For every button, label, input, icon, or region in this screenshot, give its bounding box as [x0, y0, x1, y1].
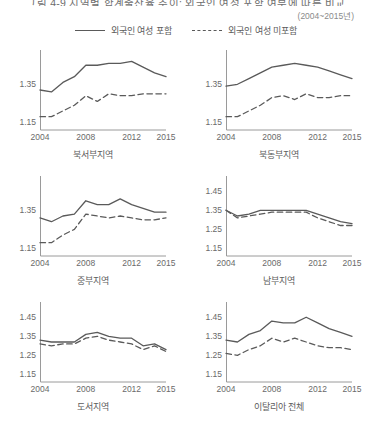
- panel-caption: 도서지역: [0, 400, 186, 413]
- y-axis-labels: 1.151.251.351.45: [0, 302, 36, 382]
- y-axis-tick-label: 1.35: [205, 205, 222, 215]
- y-axis-tick-label: 1.35: [19, 205, 36, 215]
- legend-item-included: 외국인 여성 포함: [75, 24, 172, 37]
- x-axis-tick-label: 2012: [122, 258, 141, 268]
- x-axis-tick-label: 2004: [217, 384, 236, 394]
- x-axis-labels: 2004200820122015: [226, 258, 352, 272]
- panel-grid: 1.151.352004200820122015북서부지역 1.151.3520…: [0, 44, 372, 430]
- y-axis-tick-label: 1.45: [205, 312, 222, 322]
- x-axis-tick-label: 2004: [31, 258, 50, 268]
- series-line-included: [40, 61, 166, 91]
- figure-title: 그림 4-9 지역별 합계출산율 추이: 외국인 여성 포함 여부에 따른 비교: [0, 0, 372, 6]
- panel-northwest: 1.151.352004200820122015북서부지역: [0, 44, 186, 172]
- series-line-excluded: [40, 94, 166, 117]
- x-axis-tick-label: 2004: [31, 384, 50, 394]
- x-axis-tick-label: 2015: [157, 132, 176, 142]
- panel-northeast: 1.151.352004200820122015북동부지역: [186, 44, 372, 172]
- y-axis-tick-label: 1.15: [205, 117, 222, 127]
- y-axis-tick-label: 1.25: [205, 350, 222, 360]
- legend-label-excluded: 외국인 여성 미포함: [228, 24, 297, 37]
- x-axis-tick-label: 2004: [217, 132, 236, 142]
- x-axis-labels: 2004200820122015: [40, 384, 166, 398]
- legend-item-excluded: 외국인 여성 미포함: [192, 24, 297, 37]
- y-axis-tick-label: 1.15: [19, 117, 36, 127]
- x-axis-tick-label: 2015: [343, 258, 362, 268]
- y-axis-tick-label: 1.45: [205, 186, 222, 196]
- plot-area: [40, 50, 166, 130]
- y-axis-labels: 1.151.35: [0, 176, 36, 256]
- legend-label-included: 외국인 여성 포함: [111, 24, 172, 37]
- x-axis-tick-label: 2008: [262, 384, 281, 394]
- y-axis-labels: 1.151.251.351.45: [186, 176, 222, 256]
- x-axis-labels: 2004200820122015: [40, 258, 166, 272]
- y-axis-tick-label: 1.35: [19, 331, 36, 341]
- panel-caption: 북동부지역: [186, 148, 372, 161]
- panel-central: 1.151.352004200820122015중부지역: [0, 170, 186, 298]
- y-axis-tick-label: 1.35: [205, 79, 222, 89]
- legend-solid-line-icon: [75, 27, 105, 35]
- plot-area: [226, 176, 352, 256]
- y-axis-tick-label: 1.25: [205, 224, 222, 234]
- x-axis-tick-label: 2015: [157, 384, 176, 394]
- plot-area: [40, 302, 166, 382]
- y-axis-labels: 1.151.35: [0, 50, 36, 130]
- x-axis-labels: 2004200820122015: [226, 132, 352, 146]
- y-axis-tick-label: 1.45: [19, 312, 36, 322]
- x-axis-tick-label: 2004: [31, 132, 50, 142]
- panel-caption: 북서부지역: [0, 148, 186, 161]
- x-axis-tick-label: 2008: [262, 132, 281, 142]
- axis-lines: [227, 302, 353, 382]
- panel-caption: 중부지역: [0, 274, 186, 287]
- y-axis-tick-label: 1.15: [19, 243, 36, 253]
- x-axis-tick-label: 2015: [343, 384, 362, 394]
- x-axis-tick-label: 2004: [217, 258, 236, 268]
- y-axis-labels: 1.151.35: [186, 50, 222, 130]
- series-line-included: [226, 63, 352, 86]
- axis-lines: [41, 176, 167, 256]
- panel-islands: 1.151.251.351.452004200820122015도서지역: [0, 296, 186, 424]
- series-line-excluded: [226, 94, 352, 117]
- plot-area: [40, 176, 166, 256]
- x-axis-tick-label: 2012: [122, 384, 141, 394]
- x-axis-tick-label: 2015: [343, 132, 362, 142]
- axis-lines: [41, 50, 167, 130]
- axis-lines: [227, 50, 353, 130]
- series-line-included: [40, 199, 166, 222]
- y-axis-tick-label: 1.25: [19, 350, 36, 360]
- figure-subtitle: (2004~2015년): [298, 9, 354, 21]
- y-axis-tick-label: 1.15: [205, 243, 222, 253]
- plot-area: [226, 50, 352, 130]
- series-line-included: [226, 317, 352, 342]
- x-axis-labels: 2004200820122015: [226, 384, 352, 398]
- x-axis-tick-label: 2012: [308, 132, 327, 142]
- series-line-excluded: [226, 210, 352, 225]
- x-axis-tick-label: 2012: [122, 132, 141, 142]
- panel-italy-total: 1.151.251.351.452004200820122015이탈리아 전체: [186, 296, 372, 424]
- y-axis-tick-label: 1.35: [205, 331, 222, 341]
- chart-legend: 외국인 여성 포함 외국인 여성 미포함: [0, 24, 372, 37]
- panel-caption: 남부지역: [186, 274, 372, 287]
- plot-area: [226, 302, 352, 382]
- y-axis-tick-label: 1.15: [19, 369, 36, 379]
- x-axis-labels: 2004200820122015: [40, 132, 166, 146]
- panel-caption: 이탈리아 전체: [186, 400, 372, 413]
- panel-south: 1.151.251.351.452004200820122015남부지역: [186, 170, 372, 298]
- x-axis-tick-label: 2008: [76, 258, 95, 268]
- x-axis-tick-label: 2008: [76, 132, 95, 142]
- figure-root: 그림 4-9 지역별 합계출산율 추이: 외국인 여성 포함 여부에 따른 비교…: [0, 0, 372, 430]
- x-axis-tick-label: 2008: [76, 384, 95, 394]
- y-axis-tick-label: 1.15: [205, 369, 222, 379]
- x-axis-tick-label: 2012: [308, 258, 327, 268]
- y-axis-tick-label: 1.35: [19, 79, 36, 89]
- series-line-excluded: [226, 338, 352, 355]
- x-axis-tick-label: 2012: [308, 384, 327, 394]
- series-line-excluded: [40, 336, 166, 351]
- y-axis-labels: 1.151.251.351.45: [186, 302, 222, 382]
- x-axis-tick-label: 2015: [157, 258, 176, 268]
- x-axis-tick-label: 2008: [262, 258, 281, 268]
- legend-dashed-line-icon: [192, 27, 222, 35]
- series-line-included: [40, 332, 166, 349]
